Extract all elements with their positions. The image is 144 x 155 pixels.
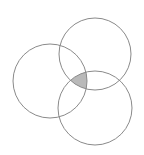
venn-diagram: [0, 0, 144, 155]
circle-top: [59, 18, 131, 90]
circle-bottom: [58, 71, 132, 145]
